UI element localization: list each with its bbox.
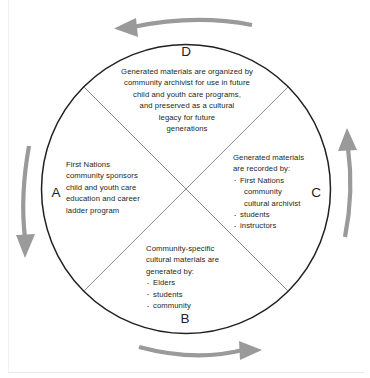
quadrant-a-line: First Nations <box>66 159 174 170</box>
quadrant-d-text: Generated materials are organized by com… <box>96 66 278 134</box>
quadrant-label-d: D <box>176 45 196 59</box>
quadrant-a-line: community sponsors <box>66 170 174 181</box>
quadrant-label-a: A <box>46 186 66 200</box>
arrow-left-downward <box>16 146 35 258</box>
quadrant-a-text: First Nations community sponsors child a… <box>66 159 174 216</box>
quadrant-b-line: cultural materials are <box>146 254 260 265</box>
quadrant-c-bullet-list: First Nations community cultural archivi… <box>233 175 335 232</box>
quadrant-d-line: generations <box>96 123 278 134</box>
quadrant-c-line: are recorded by: <box>233 163 335 174</box>
quadrant-b-line: Community-specific <box>146 243 260 254</box>
quadrant-b-bullet-line: Elders <box>153 278 175 287</box>
quadrant-c-bullet-item: students <box>233 209 335 220</box>
quadrant-b-bullet-line: community <box>153 301 191 310</box>
quadrant-b-line: generated by: <box>146 266 260 277</box>
quadrant-a-line: education and career <box>66 193 174 204</box>
quadrant-d-line: child and youth care programs, <box>96 89 278 100</box>
cycle-diagram: Generated materials are organized by com… <box>0 0 370 378</box>
quadrant-c-bullet-line: First Nations <box>240 176 284 185</box>
quadrant-c-bullet-line: students <box>240 210 270 219</box>
quadrant-a-line: child and youth care <box>66 182 174 193</box>
quadrant-c-bullet-line: instructors <box>240 221 276 230</box>
quadrant-b-bullet-item: community <box>146 300 260 311</box>
arrow-top-leftward <box>114 18 252 37</box>
quadrant-d-line: Generated materials are organized by <box>96 66 278 77</box>
quadrant-c-line: Generated materials <box>233 152 335 163</box>
quadrant-b-text: Community-specific cultural materials ar… <box>146 243 260 311</box>
arrow-bottom-rightward <box>139 341 262 360</box>
quadrant-label-c: C <box>306 186 326 200</box>
quadrant-d-line: community archivist for use in future <box>96 77 278 88</box>
quadrant-a-line: ladder program <box>66 205 174 216</box>
quadrant-d-line: legacy for future <box>96 112 278 123</box>
quadrant-b-bullet-item: students <box>146 289 260 300</box>
quadrant-b-bullet-item: Elders <box>146 277 260 288</box>
quadrant-b-bullet-list: Elders students community <box>146 277 260 311</box>
quadrant-label-b: B <box>175 312 195 326</box>
quadrant-b-bullet-line: students <box>153 290 183 299</box>
quadrant-c-bullet-item: instructors <box>233 220 335 231</box>
quadrant-d-line: and preserved as a cultural <box>96 100 278 111</box>
arrow-right-upward <box>338 128 357 237</box>
